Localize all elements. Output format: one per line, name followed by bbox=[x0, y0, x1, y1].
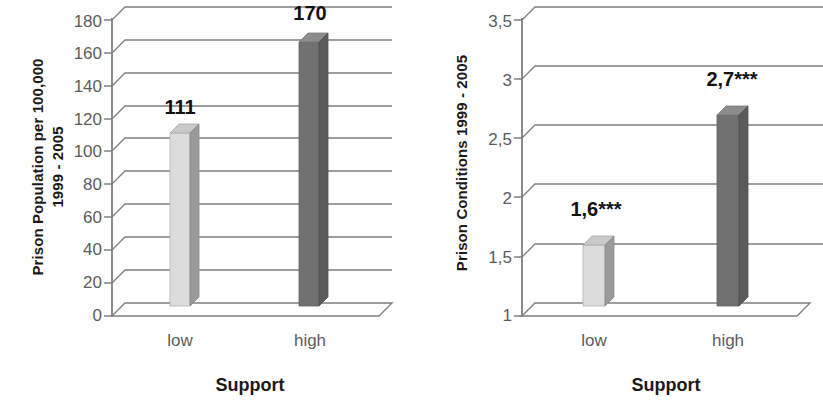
data-label-low-right: 1,6*** bbox=[534, 199, 658, 220]
y-axis-ticks-left bbox=[104, 20, 112, 316]
x-tick-label-high-left: high bbox=[270, 332, 350, 350]
data-label-high-left: 170 bbox=[270, 3, 350, 24]
chart-panel-prison-population: Prison Population per 100,000 1999 - 200… bbox=[0, 0, 410, 410]
y-axis-ticks-right bbox=[514, 20, 522, 316]
x-axis-title-left: Support bbox=[190, 375, 310, 395]
gridlines-left bbox=[112, 7, 392, 283]
data-label-high-right: 2,7*** bbox=[670, 69, 794, 90]
x-tick-label-low-right: low bbox=[554, 332, 634, 350]
bar-high-left bbox=[299, 33, 328, 306]
floor-plane-left bbox=[112, 303, 392, 316]
data-label-low-left: 111 bbox=[140, 97, 220, 118]
x-axis-title-right: Support bbox=[606, 375, 726, 395]
x-tick-label-low-left: low bbox=[140, 332, 220, 350]
bar-low-left bbox=[170, 124, 199, 306]
bar-low-right bbox=[583, 236, 614, 306]
x-tick-label-high-right: high bbox=[688, 332, 768, 350]
chart-panel-prison-conditions: Prison Conditions 1999 - 2005 3,5 3 2,5 … bbox=[410, 0, 823, 410]
floor-plane-right bbox=[522, 303, 810, 316]
bar-high-right bbox=[717, 106, 748, 306]
two-panel-bar-chart-figure: Prison Population per 100,000 1999 - 200… bbox=[0, 0, 823, 410]
